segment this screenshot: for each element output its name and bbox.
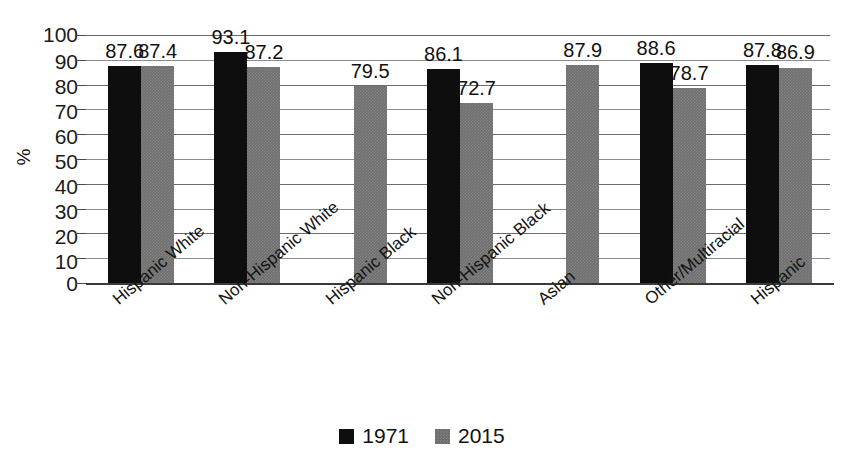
bar-1971-hispanic — [746, 65, 779, 283]
legend: 1971 2015 — [0, 424, 844, 448]
gray-square-icon — [435, 429, 450, 444]
value-label-1971-other-multiracial: 88.6 — [630, 37, 682, 60]
y-tick-label-20: 20 — [30, 226, 78, 247]
black-square-icon — [339, 429, 354, 444]
bar-2015-asian — [566, 65, 599, 283]
y-tick-label-100: 100 — [30, 24, 78, 45]
gridline-100 — [86, 35, 830, 36]
y-tick-label-0: 0 — [30, 273, 78, 294]
y-tick-label-40: 40 — [30, 176, 78, 197]
y-tick-60 — [75, 134, 86, 135]
y-tick-90 — [75, 60, 86, 61]
y-tick-100 — [75, 35, 86, 36]
value-label-2015-asian: 87.9 — [557, 39, 609, 62]
y-tick-label-50: 50 — [30, 151, 78, 172]
y-tick-label-80: 80 — [30, 76, 78, 97]
y-tick-10 — [75, 258, 86, 259]
legend-label-2015: 2015 — [458, 424, 505, 448]
y-tick-20 — [75, 233, 86, 234]
y-tick-0 — [75, 283, 86, 284]
y-tick-70 — [75, 109, 86, 110]
y-tick-label-60: 60 — [30, 126, 78, 147]
y-tick-label-70: 70 — [30, 101, 78, 122]
bar-1971-other-multiracial — [640, 63, 673, 283]
y-tick-30 — [75, 209, 86, 210]
legend-item-1971: 1971 — [339, 424, 409, 448]
value-label-2015-other-multiracial: 78.7 — [663, 62, 715, 85]
bar-2015-hispanic — [779, 68, 812, 284]
bar-chart: % 100 90 80 70 60 50 40 30 20 10 0 87.68… — [0, 0, 844, 461]
y-tick-label-30: 30 — [30, 201, 78, 222]
bar-1971-non-hispanic-black — [427, 69, 460, 283]
y-tick-label-10: 10 — [30, 251, 78, 272]
value-label-2015-hispanic: 86.9 — [769, 41, 821, 64]
y-tick-80 — [75, 85, 86, 86]
y-tick-label-90: 90 — [30, 51, 78, 72]
value-label-2015-non-hispanic-black: 72.7 — [451, 77, 503, 100]
bar-1971-non-hispanic-white — [214, 52, 247, 283]
value-label-2015-non-hispanic-white: 87.2 — [238, 41, 290, 64]
bar-1971-hispanic-white — [108, 66, 141, 283]
value-label-2015-hispanic-black: 79.5 — [344, 60, 396, 83]
legend-item-2015: 2015 — [435, 424, 505, 448]
value-label-2015-hispanic-white: 87.4 — [132, 40, 184, 63]
y-tick-50 — [75, 159, 86, 160]
value-label-1971-non-hispanic-black: 86.1 — [418, 43, 470, 66]
legend-label-1971: 1971 — [362, 424, 409, 448]
y-tick-40 — [75, 184, 86, 185]
